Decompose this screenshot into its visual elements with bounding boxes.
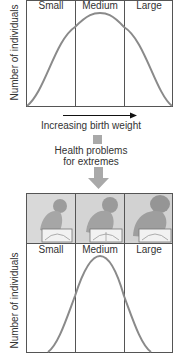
down-arrow-icon bbox=[88, 167, 109, 189]
bottom-distribution-curve bbox=[48, 256, 151, 352]
bottom-category-large: Large bbox=[125, 244, 173, 255]
top-distribution-curve bbox=[27, 13, 172, 106]
bottom-category-medium: Medium bbox=[76, 244, 124, 255]
large-baby-photo bbox=[125, 194, 172, 243]
weight-arrow-head bbox=[130, 113, 137, 119]
top-plot-frame bbox=[27, 1, 173, 107]
top-plot-graphics bbox=[0, 0, 182, 364]
selection-note-line2: for extremes bbox=[0, 156, 182, 168]
arrow-caption: Increasing birth weight bbox=[0, 120, 182, 132]
medium-baby-photo bbox=[76, 194, 124, 243]
top-category-small: Small bbox=[27, 0, 75, 11]
small-baby-photo bbox=[27, 194, 75, 243]
top-category-large: Large bbox=[125, 0, 173, 11]
bottom-y-axis-label: Number of individuals bbox=[9, 246, 20, 356]
top-category-medium: Medium bbox=[76, 0, 124, 11]
connector-square bbox=[93, 135, 102, 144]
bottom-category-small: Small bbox=[27, 244, 75, 255]
top-y-axis-label: Number of individuals bbox=[9, 0, 20, 108]
